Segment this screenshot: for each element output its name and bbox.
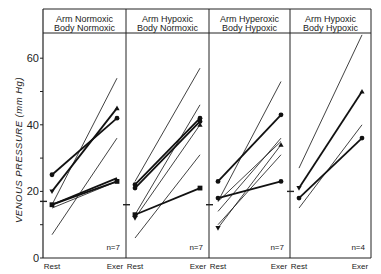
sample-size-label: n=7 <box>106 243 120 252</box>
subject-line <box>135 105 200 215</box>
subject-line <box>135 188 200 215</box>
subject-line <box>218 155 281 225</box>
rest-marker <box>49 189 54 194</box>
x-label-exer: Exer <box>271 262 288 271</box>
panel-4: Arm HypoxicBody Hypoxicn=4RestExer <box>287 14 369 271</box>
exer-marker <box>114 106 119 111</box>
subject-line <box>299 125 362 208</box>
exer-marker <box>360 136 365 141</box>
x-label-rest: Rest <box>291 262 308 271</box>
panel-title-body: Body Normoxic <box>137 23 199 33</box>
subject-line <box>135 68 200 181</box>
subject-line <box>135 121 200 188</box>
x-label-rest: Rest <box>127 262 144 271</box>
rest-marker <box>296 186 301 191</box>
y-tick-label: 40 <box>27 119 39 131</box>
exer-marker <box>279 112 284 117</box>
subject-line <box>135 155 200 238</box>
panel-title-body: Body Normoxic <box>54 23 116 33</box>
subject-line <box>135 118 200 185</box>
exer-marker <box>198 186 203 191</box>
sample-size-label: n=4 <box>351 243 365 252</box>
rest-marker <box>297 196 302 201</box>
panel-1: Arm NormoxicBody Normoxicn=7RestExer <box>40 14 124 271</box>
y-axis: 0204060 <box>27 52 43 264</box>
chart-frame <box>43 9 371 258</box>
y-tick-label: 20 <box>27 185 39 197</box>
x-label-rest: Rest <box>210 262 227 271</box>
panels: Arm NormoxicBody Normoxicn=7RestExerArm … <box>40 14 369 271</box>
subject-line <box>52 178 117 205</box>
panel-title-body: Body Hypoxic <box>222 23 278 33</box>
exer-marker <box>359 89 364 94</box>
rest-marker <box>133 186 138 191</box>
x-label-exer: Exer <box>190 262 207 271</box>
subject-line <box>299 92 362 189</box>
panel-3: Arm HyperoxicBody Hypoxicn=7RestExer <box>206 14 288 271</box>
sample-size-label: n=7 <box>270 243 284 252</box>
subject-line <box>218 145 281 228</box>
x-label-rest: Rest <box>44 262 61 271</box>
rest-marker <box>50 172 55 177</box>
y-tick-label: 60 <box>27 52 39 64</box>
subject-line <box>299 138 362 198</box>
x-label-exer: Exer <box>352 262 369 271</box>
rest-marker <box>132 216 137 221</box>
panel-title-body: Body Hypoxic <box>303 23 359 33</box>
exer-marker <box>115 116 120 121</box>
subject-line <box>135 125 200 218</box>
rest-marker <box>216 179 221 184</box>
subject-line <box>52 118 117 175</box>
y-axis-label: VENOUS PRESSURE (mm Hg) <box>13 77 24 223</box>
x-label-exer: Exer <box>107 262 124 271</box>
sample-size-label: n=7 <box>189 243 203 252</box>
exer-marker <box>279 179 284 184</box>
y-tick-label: 0 <box>33 252 39 264</box>
panel-2: Arm HypoxicBody Normoxicn=7RestExer <box>123 14 207 271</box>
venous-pressure-chart: 0204060 Arm NormoxicBody Normoxicn=7Rest… <box>0 0 381 274</box>
subject-line <box>52 108 117 191</box>
rest-marker <box>215 226 220 231</box>
